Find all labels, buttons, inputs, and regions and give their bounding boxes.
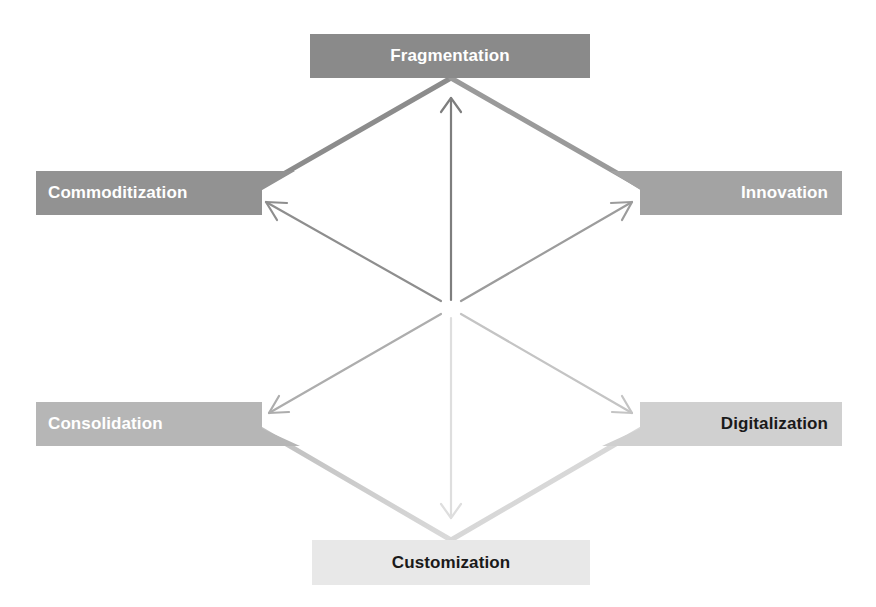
label-customization-text: Customization (392, 553, 510, 573)
arrow-to-consolidation (269, 314, 441, 413)
arrow-to-innovation (461, 202, 632, 301)
arrow-to-commoditization (266, 202, 441, 301)
label-innovation-text: Innovation (741, 183, 828, 203)
label-customization: Customization (312, 540, 590, 585)
hexagon-diagram (0, 0, 876, 607)
label-consolidation: Consolidation (36, 402, 262, 446)
label-commoditization-text: Commoditization (48, 183, 187, 203)
label-digitalization: Digitalization (640, 402, 842, 446)
label-digitalization-text: Digitalization (721, 414, 828, 434)
label-innovation: Innovation (640, 171, 842, 215)
label-consolidation-text: Consolidation (48, 414, 163, 434)
label-fragmentation: Fragmentation (310, 34, 590, 78)
arrow-to-customization (441, 318, 461, 518)
arrow-to-digitalization (461, 314, 632, 413)
force-arrows (266, 98, 632, 518)
arrow-to-fragmentation (441, 98, 461, 300)
label-commoditization: Commoditization (36, 171, 262, 215)
label-fragmentation-text: Fragmentation (390, 46, 509, 66)
